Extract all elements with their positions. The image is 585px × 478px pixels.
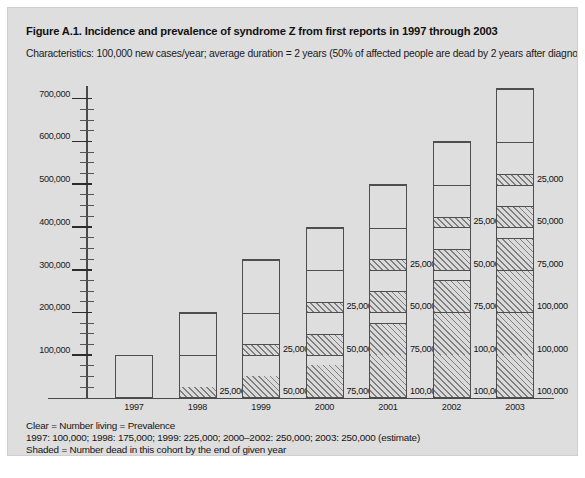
- bar-segment-shaded: 100,000: [497, 270, 533, 312]
- bar-segment-shaded: 100,000: [434, 355, 470, 397]
- bar-segment-clear: [243, 355, 279, 376]
- bar-segment-value-label: 100,000: [537, 301, 568, 311]
- bar-segment-clear: [434, 142, 470, 184]
- y-tick-minor: [80, 301, 94, 302]
- bar-segment-clear: [370, 185, 406, 227]
- y-tick-minor: [80, 109, 94, 110]
- y-axis-tick-label: 100,000: [8, 345, 70, 355]
- y-gridline-major: [72, 354, 92, 356]
- y-tick-minor: [80, 365, 94, 366]
- bar-segment-shaded: 100,000: [434, 312, 470, 354]
- y-gridline-major: [72, 269, 92, 271]
- y-axis-tick-label: 500,000: [8, 174, 70, 184]
- bar-segment-shaded: 75,000: [434, 280, 470, 312]
- bar-segment-shaded: 25,000: [497, 174, 533, 185]
- legend-line-shaded: Shaded = Number dead in this cohort by t…: [26, 444, 571, 455]
- y-tick-minor: [80, 259, 94, 260]
- y-gridline-major: [72, 312, 92, 314]
- bar-segment-clear: [370, 270, 406, 291]
- bar-segment-clear: [307, 355, 343, 366]
- bar-segment-shaded: 50,000: [370, 291, 406, 312]
- bar-2002[interactable]: 100,000100,00075,00050,00025,000: [433, 141, 471, 398]
- y-tick-minor: [80, 344, 94, 345]
- y-tick-minor: [80, 237, 94, 238]
- legend-line-prevalence-values: 1997: 100,000; 1998: 175,000; 1999: 225,…: [26, 432, 571, 444]
- bar-segment-shaded: 50,000: [243, 376, 279, 397]
- y-tick-minor: [80, 280, 94, 281]
- bar-segment-clear: [497, 89, 533, 142]
- y-tick-minor: [80, 376, 94, 377]
- x-axis-line: [48, 398, 554, 399]
- figure-panel: Figure A.1. Incidence and prevalence of …: [8, 8, 577, 455]
- bar-segment-clear: [243, 313, 279, 345]
- y-tick-minor: [80, 194, 94, 195]
- bar-2000[interactable]: 75,00050,00025,000: [306, 227, 344, 398]
- bar-segment-shaded: 25,000: [434, 217, 470, 228]
- bar-segment-value-label: 75,000: [537, 259, 563, 269]
- bar-segment-clear: [116, 356, 152, 397]
- x-axis-label-2002: 2002: [423, 402, 481, 412]
- bar-segment-shaded: 100,000: [370, 355, 406, 397]
- y-gridline-major: [72, 141, 92, 143]
- y-tick-minor: [80, 152, 94, 153]
- y-axis-tick-label: 700,000: [8, 89, 70, 99]
- bar-segment-shaded: 50,000: [497, 206, 533, 227]
- bar-segment-clear: [497, 185, 533, 206]
- x-axis-label-2001: 2001: [359, 402, 417, 412]
- bar-segment-clear: [180, 313, 216, 355]
- bar-segment-clear: [497, 142, 533, 174]
- bar-segment-shaded: 100,000: [497, 355, 533, 397]
- bar-segment-clear: [307, 270, 343, 302]
- x-axis-label-1999: 1999: [232, 402, 290, 412]
- bar-1998[interactable]: 25,000*: [179, 312, 217, 398]
- x-axis-label-2000: 2000: [296, 402, 354, 412]
- bar-segment-shaded: 75,000: [497, 238, 533, 270]
- y-tick-minor: [80, 205, 94, 206]
- y-tick-minor: [80, 323, 94, 324]
- bar-segment-clear: [307, 228, 343, 270]
- bar-segment-shaded: 100,000: [497, 312, 533, 354]
- bar-segment-clear: [307, 312, 343, 333]
- bar-segment-value-label: 50,000: [537, 216, 563, 226]
- bar-segment-value-label: 25,000: [537, 174, 563, 184]
- bar-chart-plot: 100,000200,000300,000400,000500,000600,0…: [8, 8, 577, 455]
- bar-segment-clear: [434, 227, 470, 248]
- x-axis-label-2003: 2003: [486, 402, 544, 412]
- y-tick-minor: [80, 248, 94, 249]
- y-tick-minor: [80, 130, 94, 131]
- bar-segment-clear: [370, 228, 406, 260]
- bar-segment-value-label: 100,000: [537, 386, 568, 396]
- y-gridline-major: [72, 183, 92, 185]
- y-tick-minor: [80, 173, 94, 174]
- y-tick-minor: [80, 216, 94, 217]
- bar-segment-clear: [370, 312, 406, 323]
- bar-segment-shaded: 50,000: [434, 249, 470, 270]
- bar-1997[interactable]: [115, 355, 153, 398]
- y-axis-line: [86, 86, 88, 399]
- bar-segment-shaded: 25,000*: [180, 387, 216, 397]
- bar-segment-shaded: 75,000: [307, 365, 343, 397]
- bar-segment-shaded: 25,000: [370, 259, 406, 270]
- bar-segment-clear: [434, 185, 470, 217]
- bar-2001[interactable]: 100,00075,00050,00025,000: [369, 184, 407, 398]
- y-tick-minor: [80, 162, 94, 163]
- legend-line-clear: Clear = Number living = Prevalence: [26, 420, 571, 432]
- figure-legend: Clear = Number living = Prevalence 1997:…: [26, 420, 571, 455]
- bar-2003[interactable]: 100,000100,000100,00075,00050,00025,000: [496, 88, 534, 398]
- bar-segment-clear: [434, 270, 470, 281]
- bar-segment-clear: [243, 260, 279, 313]
- bar-segment-shaded: 25,000: [307, 302, 343, 313]
- y-tick-minor: [80, 291, 94, 292]
- x-axis-label-1998: 1998: [169, 402, 227, 412]
- y-gridline-major: [72, 98, 92, 100]
- y-tick-minor: [80, 387, 94, 388]
- y-gridline-major: [72, 226, 92, 228]
- x-axis-label-1997: 1997: [105, 402, 163, 412]
- bar-segment-clear: [180, 355, 216, 386]
- bar-segment-shaded: 50,000: [307, 334, 343, 355]
- y-axis-tick-label: 400,000: [8, 217, 70, 227]
- y-axis-tick-label: 200,000: [8, 302, 70, 312]
- y-axis-tick-label: 300,000: [8, 260, 70, 270]
- bar-1999[interactable]: 50,00025,000: [242, 259, 280, 398]
- y-axis-tick-label: 600,000: [8, 131, 70, 141]
